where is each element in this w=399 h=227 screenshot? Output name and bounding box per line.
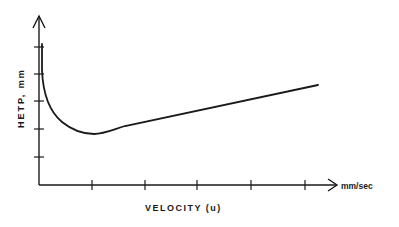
y-axis-label: HETP, mm	[16, 68, 26, 128]
hetp-curve	[42, 44, 318, 134]
x-unit-label: mm/sec	[341, 181, 373, 191]
axes	[33, 16, 337, 191]
x-axis-label: VELOCITY (u)	[145, 203, 222, 213]
chart: HETP, mm VELOCITY (u) mm/sec	[0, 0, 399, 227]
